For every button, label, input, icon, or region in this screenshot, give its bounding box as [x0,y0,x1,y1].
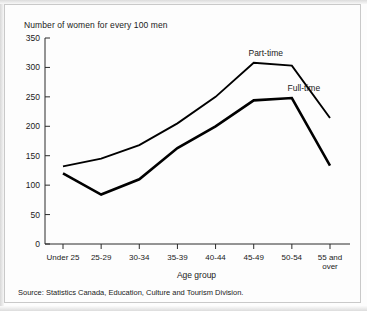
y-axis: 050100150200250300350 [26,33,50,249]
x-axis-title: Age group [177,270,216,280]
x-tick-label: 50-54 [282,253,303,262]
line-chart-plot: 050100150200250300350 Under 2525-2930-34… [0,0,367,311]
x-axis-title-text: Age group [177,270,216,280]
x-tick-label: 55 and [318,253,342,262]
source-note: Source: Statistics Canada, Education, Cu… [18,288,243,297]
x-tick-label: 30-34 [129,253,150,262]
x-tick-label: 35-39 [167,253,188,262]
y-tick-label: 350 [26,33,40,43]
x-axis: Under 2525-2930-3435-3940-4445-4950-5455… [45,244,350,271]
x-tick-label: Under 25 [47,253,80,262]
y-tick-label: 250 [26,92,40,102]
y-tick-label: 100 [26,180,40,190]
series-annotations: Part-timeFull-time [248,48,320,93]
x-tick-label: over [322,262,338,271]
y-tick-label: 50 [31,210,41,220]
y-tick-label: 200 [26,121,40,131]
series-label-full-time: Full-time [288,83,321,93]
x-tick-label: 40-44 [205,253,226,262]
x-tick-label: 45-49 [243,253,264,262]
series-label-part-time: Part-time [248,48,283,58]
y-tick-label: 0 [35,239,40,249]
y-tick-label: 300 [26,62,40,72]
x-tick-label: 25-29 [91,253,112,262]
chart-page: Number of women for every 100 men 050100… [0,0,367,311]
series-line-part-time [63,63,330,167]
y-tick-label: 150 [26,151,40,161]
series-line-full-time [63,98,330,195]
